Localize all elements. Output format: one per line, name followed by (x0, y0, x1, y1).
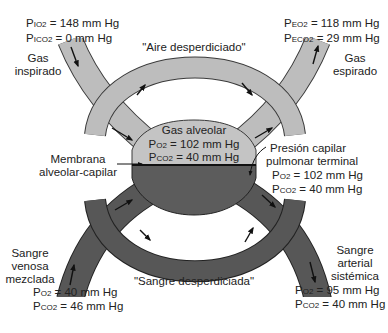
venous-po2: PO2 = 40 mm Hg (33, 286, 118, 298)
end-capillary-pco2: PCO2 = 40 mm Hg (272, 183, 362, 195)
inspired-gas-label-1: Gas (27, 52, 48, 64)
venous-label-1: Sangre (11, 247, 48, 259)
venous-label-3: mezclada (5, 273, 55, 285)
shunt-blood-label: "Sangre desperdiciada" (134, 275, 254, 287)
inspired-gas-label-2: inspirado (15, 65, 62, 77)
arterial-label-3: sistémica (331, 270, 380, 282)
expired-gas-label-2: espirado (333, 65, 377, 77)
inspired-po2: PIO2 = 148 mm Hg (26, 17, 119, 29)
venous-label-2: venosa (11, 260, 49, 272)
dead-space-label: "Aire desperdiciado" (142, 41, 245, 53)
expired-gas-label-1: Gas (344, 52, 365, 64)
end-capillary-label-2: pulmonar terminal (266, 155, 358, 167)
membrane-label-2: alveolar-capilar (39, 166, 117, 178)
arterial-label-1: Sangre (336, 244, 373, 256)
diagram-canvas: PIO2 = 148 mm Hg PICO2 = 0 mm Hg Gas ins… (0, 0, 388, 333)
membrane-label-1: Membrana (51, 153, 107, 165)
end-capillary-label-1: Presión capilar (270, 142, 346, 154)
arterial-label-2: arterial (337, 257, 372, 269)
alveolar-gas-label: Gas alveolar (162, 124, 227, 136)
expired-po2: PEO2 = 118 mm Hg (284, 17, 379, 29)
inspired-pco2: PICO2 = 0 mm Hg (26, 32, 112, 44)
end-capillary-po2: PO2 = 102 mm Hg (272, 169, 363, 181)
